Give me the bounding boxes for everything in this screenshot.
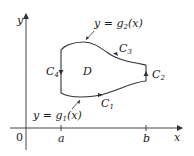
upper-curve-label: y = g2(x) <box>93 17 143 31</box>
label-c1: C1 <box>101 97 114 111</box>
tick-label-b: b <box>143 132 150 145</box>
region-diagram: y x 0 a b D y = g2(x) y = g1(x) C1 C2 C3… <box>0 0 194 156</box>
lower-curve-label: y = g1(x) <box>32 109 82 123</box>
region-label: D <box>82 65 92 78</box>
origin-label: 0 <box>16 131 23 144</box>
curve-c3-upper <box>61 42 146 65</box>
tick-label-a: a <box>58 132 65 145</box>
label-c2: C2 <box>152 68 165 82</box>
arrow-c4-icon <box>59 70 64 75</box>
label-c4: C4 <box>46 65 59 79</box>
x-axis-label: x <box>174 131 181 144</box>
arrow-c2-icon <box>144 71 149 76</box>
y-axis-label: y <box>16 14 24 27</box>
arrow-c3-icon <box>113 52 118 56</box>
curve-c1-lower <box>61 81 146 97</box>
label-c3: C3 <box>119 42 132 56</box>
